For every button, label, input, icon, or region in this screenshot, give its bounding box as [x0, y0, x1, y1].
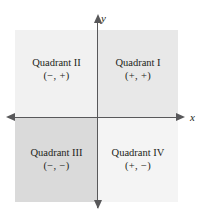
quadrant-2-name: Quadrant II: [15, 56, 98, 69]
quadrant-3-name: Quadrant III: [15, 146, 98, 159]
quadrant-4-label: Quadrant IV (+, −): [98, 146, 178, 173]
quadrant-2-signs: (−, +): [15, 69, 98, 82]
quadrant-diagram: y x Quadrant II (−, +) Quadrant I (+, +)…: [0, 0, 206, 220]
quadrant-3-signs: (+, −): [98, 159, 178, 172]
x-axis-right-arrow-icon: [176, 113, 185, 121]
quadrant-2-label: Quadrant II (−, +): [15, 56, 98, 83]
y-axis-label: y: [101, 13, 106, 24]
y-axis-line: [97, 18, 98, 208]
x-axis-left-arrow-icon: [6, 113, 15, 121]
quadrant-3-signs: (−, −): [15, 159, 98, 172]
x-axis-label: x: [190, 112, 195, 123]
quadrant-3-label: Quadrant III (−, −): [15, 146, 98, 173]
quadrant-1-name: Quadrant I: [98, 56, 178, 69]
quadrant-1-label: Quadrant I (+, +): [98, 56, 178, 83]
quadrant-4-name: Quadrant IV: [98, 146, 178, 159]
x-axis-line: [10, 117, 180, 118]
y-axis-down-arrow-icon: [94, 200, 102, 209]
quadrant-1-signs: (+, +): [98, 69, 178, 82]
